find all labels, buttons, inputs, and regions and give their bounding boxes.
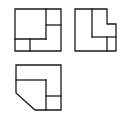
top-view-outline (16, 65, 61, 110)
side-view (75, 9, 116, 51)
side-view-outline (75, 9, 116, 51)
front-view-outline (15, 9, 61, 51)
drawing-surface (0, 0, 121, 116)
top-view (16, 65, 61, 110)
front-view (15, 9, 61, 51)
three-view-drawing (0, 0, 121, 116)
